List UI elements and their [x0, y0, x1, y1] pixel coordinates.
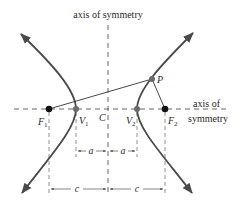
vertex-2-label: V2 [126, 115, 136, 128]
horizontal-axis-label-line1: axis of [193, 98, 221, 109]
dimension-c-left-label: c [75, 183, 80, 194]
point-p-label: P [156, 74, 163, 85]
point-p [149, 76, 155, 82]
dimension-a-right-label: a [121, 145, 126, 156]
focus-1-label: F1 [37, 116, 48, 129]
horizontal-axis-label-line2: symmetry [188, 113, 228, 124]
center-label: C [99, 112, 106, 123]
hyperbola-left-branch [21, 34, 76, 193]
dimension-a-left-label: a [89, 145, 94, 156]
vertex-1-point [73, 106, 79, 112]
vertex-1-label: V1 [79, 115, 89, 128]
vertex-2-point [134, 106, 140, 112]
focus-2-label: F2 [167, 115, 178, 128]
hyperbola-diagram: axis of symmetry axis of symmetry C P F1… [0, 0, 244, 207]
vertical-axis-label: axis of symmetry [73, 9, 142, 20]
focus-1-point [46, 106, 53, 113]
focus-2-point [162, 106, 169, 113]
dimension-c-right-label: c [135, 183, 140, 194]
